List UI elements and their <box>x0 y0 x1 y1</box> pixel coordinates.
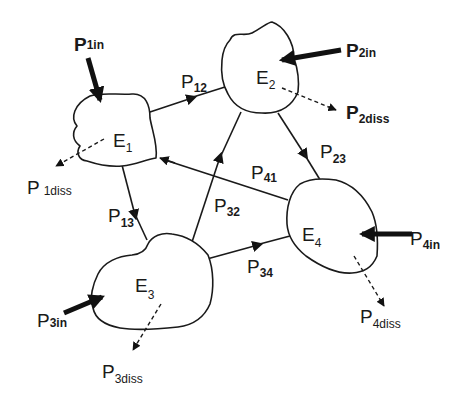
diss-p3diss-label: P3diss <box>102 361 143 386</box>
energy-flow-diagram: E1 E2 E3 E4 P12 P23 P41 P13 P32 P34 P1in… <box>0 0 467 405</box>
flow-p23-label: P23 <box>320 141 346 166</box>
node-e4-shape <box>287 179 378 273</box>
flow-p34-label: P34 <box>247 256 273 280</box>
flow-p23-line <box>278 113 305 155</box>
input-arrow-e1 <box>88 58 100 100</box>
input-p4in-label: P4in <box>410 228 440 252</box>
diss-p1diss-label: P1diss <box>27 177 72 198</box>
flow-p32-label: P32 <box>214 195 240 219</box>
flow-p13-line <box>122 165 135 215</box>
flow-p12-line <box>147 98 192 113</box>
input-p1in-label: P1in <box>74 34 104 55</box>
node-shapes <box>74 22 378 330</box>
diss-p4diss-label: P4diss <box>360 306 401 331</box>
input-p3in-label: P3in <box>37 310 67 331</box>
node-e3-shape <box>91 233 212 329</box>
flow-p13-label: P13 <box>108 205 134 230</box>
flow-p12-label: P12 <box>181 71 207 95</box>
flow-p41-label: P41 <box>251 162 277 185</box>
input-p2in-label: P2in <box>346 40 376 61</box>
diagram-canvas: E1 E2 E3 E4 P12 P23 P41 P13 P32 P34 P1in… <box>0 0 467 405</box>
diss-p2diss-label: P2diss <box>346 102 390 126</box>
